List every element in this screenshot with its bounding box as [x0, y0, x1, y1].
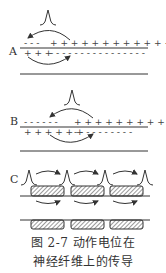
spike-icon	[59, 170, 75, 185]
svg-text:- - -: - - -	[24, 38, 39, 48]
svg-text:+ + + + + + + + + + + + +: + + + + + + + + + + + + +	[50, 38, 166, 48]
caption-line-1: 图 2-7 动作电位在	[0, 233, 166, 250]
myelin-sheath	[31, 220, 64, 229]
panel-label-a: A	[8, 45, 18, 58]
spike-icon	[97, 170, 113, 185]
panel-c: C	[10, 170, 153, 229]
svg-text:- - - - - -: - - - - - -	[24, 117, 58, 127]
myelin-sheath	[71, 220, 104, 229]
myelin-sheath	[110, 220, 143, 229]
myelin-sheath	[71, 186, 104, 196]
spike-icon	[21, 170, 37, 185]
spike-icon	[40, 10, 56, 25]
panel-label-b: B	[10, 115, 18, 128]
panel-b: - - - - - - + + + + + + + + + + + + + + …	[10, 90, 166, 151]
svg-text:- - - - - - - - - -: - - - - - - - - - -	[74, 127, 132, 137]
svg-text:+ + + + + + + + + +: + + + + + + + + + +	[74, 117, 166, 127]
myelin-sheath	[31, 186, 64, 196]
svg-text:+ + +: + + +	[24, 48, 52, 58]
panel-a: - - - + + + + + + + + + + + + + + + + - …	[8, 10, 166, 74]
panel-label-c: C	[10, 173, 18, 186]
spike-icon	[137, 170, 153, 185]
caption-line-2: 神经纤维上的传导	[0, 252, 166, 269]
svg-text:- - - - - - - - - - - - - - -: - - - - - - - - - - - - - - - -	[50, 48, 145, 58]
spike-icon	[64, 90, 80, 105]
myelin-sheath	[110, 186, 143, 196]
